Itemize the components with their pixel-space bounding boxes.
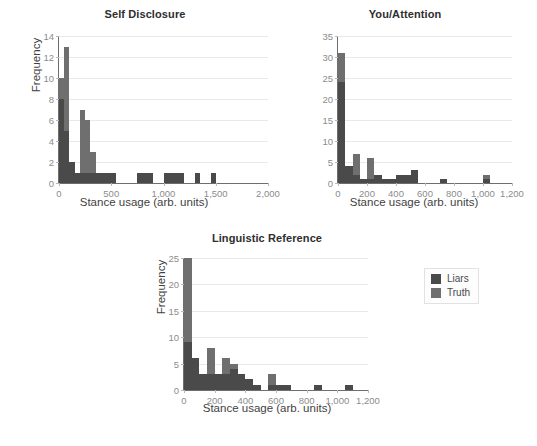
y-tick-label: 25 xyxy=(322,73,333,84)
y-tick-label: 5 xyxy=(328,157,333,168)
histogram-bar[interactable] xyxy=(367,158,374,183)
y-gridline xyxy=(338,36,512,37)
x-tick-mark xyxy=(59,183,60,186)
chart-title: You/Attention xyxy=(290,8,520,20)
y-tick-label: 10 xyxy=(43,73,54,84)
bar-segment-liars xyxy=(184,342,192,390)
histogram-bar[interactable] xyxy=(230,364,238,390)
bar-segment-liars xyxy=(345,385,353,390)
bar-segment-liars xyxy=(179,173,184,184)
histogram-bar[interactable] xyxy=(207,348,215,390)
x-tick-mark xyxy=(245,390,246,393)
bar-segment-liars xyxy=(360,179,367,183)
bar-segment-truth xyxy=(184,258,192,342)
histogram-bar[interactable] xyxy=(148,173,153,184)
bar-segment-liars xyxy=(111,173,116,184)
bar-segment-liars xyxy=(396,175,403,183)
y-tick-label: 5 xyxy=(174,358,179,369)
histogram-bar[interactable] xyxy=(245,379,253,390)
histogram-bar[interactable] xyxy=(353,154,360,183)
histogram-bar[interactable] xyxy=(396,175,403,183)
x-tick-mark xyxy=(111,183,112,186)
chart-panel-linguistic-reference: Linguistic Reference Frequency 051015202… xyxy=(130,232,410,442)
bar-segment-liars xyxy=(195,173,200,184)
bar-segment-truth xyxy=(222,358,230,374)
legend-item-truth[interactable]: Truth xyxy=(431,288,470,298)
x-tick-mark xyxy=(483,183,484,186)
histogram-bar[interactable] xyxy=(382,179,389,183)
bar-segment-liars xyxy=(403,175,410,183)
bar-segment-liars xyxy=(483,179,490,183)
y-tick-label: 20 xyxy=(322,94,333,105)
histogram-bar[interactable] xyxy=(360,179,367,183)
y-gridline xyxy=(59,120,268,121)
bar-segment-liars xyxy=(148,173,153,184)
histogram-bar[interactable] xyxy=(211,173,216,184)
legend-item-liars[interactable]: Liars xyxy=(431,274,470,284)
x-tick-mark xyxy=(396,183,397,186)
histogram-bar[interactable] xyxy=(215,374,223,390)
histogram-bar[interactable] xyxy=(483,175,490,183)
y-tick-label: 15 xyxy=(168,305,179,316)
y-gridline xyxy=(338,99,512,100)
histogram-bar[interactable] xyxy=(276,385,284,390)
bar-segment-truth xyxy=(90,152,95,173)
bar-segment-liars xyxy=(245,379,253,390)
histogram-bar[interactable] xyxy=(440,179,447,183)
histogram-bar[interactable] xyxy=(111,173,116,184)
x-tick-mark xyxy=(367,183,368,186)
y-gridline xyxy=(59,36,268,37)
x-tick-mark xyxy=(512,183,513,186)
histogram-bar[interactable] xyxy=(199,374,207,390)
histogram-bar[interactable] xyxy=(253,385,261,390)
x-tick-mark xyxy=(338,183,339,186)
bar-segment-liars xyxy=(222,374,230,390)
x-tick-mark xyxy=(276,390,277,393)
histogram-bar[interactable] xyxy=(222,358,230,390)
histogram-bar[interactable] xyxy=(338,53,345,183)
bar-segment-liars xyxy=(345,166,352,183)
chart-title: Self Disclosure xyxy=(0,8,290,20)
histogram-bar[interactable] xyxy=(192,358,200,390)
x-tick-mark xyxy=(368,390,369,393)
x-tick-mark xyxy=(337,390,338,393)
y-tick-label: 0 xyxy=(49,178,54,189)
histogram-bar[interactable] xyxy=(345,385,353,390)
bar-segment-liars xyxy=(199,374,207,390)
histogram-bar[interactable] xyxy=(389,179,396,183)
x-tick-mark xyxy=(216,183,217,186)
y-tick-label: 8 xyxy=(49,94,54,105)
x-tick-mark xyxy=(268,183,269,186)
y-tick-label: 10 xyxy=(322,136,333,147)
histogram-bar[interactable] xyxy=(195,173,200,184)
histogram-bar[interactable] xyxy=(268,374,276,390)
y-tick-label: 10 xyxy=(168,332,179,343)
legend-swatch-liars xyxy=(431,274,441,284)
chart-panel-self-disclosure: Self Disclosure Frequency 02468101214050… xyxy=(0,8,290,220)
histogram-bar[interactable] xyxy=(284,385,292,390)
y-tick-label: 0 xyxy=(174,385,179,396)
bar-segment-liars xyxy=(238,374,246,390)
y-tick-label: 4 xyxy=(49,136,54,147)
y-gridline xyxy=(338,162,512,163)
histogram-bar[interactable] xyxy=(238,374,246,390)
x-tick-mark xyxy=(184,390,185,393)
y-tick-label: 20 xyxy=(168,279,179,290)
histogram-bar[interactable] xyxy=(179,173,184,184)
histogram-bar[interactable] xyxy=(314,385,322,390)
histogram-bar[interactable] xyxy=(345,166,352,183)
bar-segment-liars xyxy=(314,385,322,390)
histogram-bar[interactable] xyxy=(411,170,418,183)
y-gridline xyxy=(184,311,368,312)
legend-swatch-truth xyxy=(431,288,441,298)
histogram-bar[interactable] xyxy=(374,175,381,183)
bar-segment-liars xyxy=(284,385,292,390)
y-tick-label: 15 xyxy=(322,115,333,126)
bar-segment-liars xyxy=(268,385,276,390)
bar-segment-liars xyxy=(207,374,215,390)
x-tick-mark xyxy=(307,390,308,393)
histogram-bar[interactable] xyxy=(184,258,192,390)
bar-segment-liars xyxy=(374,175,381,183)
y-gridline xyxy=(184,258,368,259)
histogram-bar[interactable] xyxy=(403,175,410,183)
